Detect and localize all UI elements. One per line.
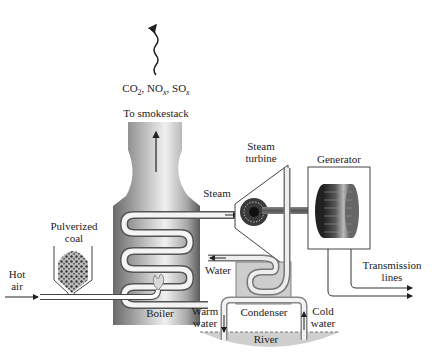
- generator: [308, 167, 370, 249]
- steam-label: Steam: [200, 187, 234, 199]
- river-label: River: [246, 333, 286, 345]
- pulverized-coal-label: Pulverized coal: [44, 220, 104, 244]
- condenser-label: Condenser: [232, 306, 296, 318]
- power-plant-diagram: CO2, NOx, SOx To smokestack Steam turbin…: [0, 0, 432, 362]
- water-label: Water: [201, 264, 235, 276]
- emissions-label: CO2, NOx, SOx: [120, 82, 192, 99]
- warm-water-label: Warm water: [188, 305, 222, 329]
- generator-label: Generator: [308, 153, 370, 165]
- hot-air-label: Hot air: [4, 268, 30, 292]
- coal-hopper: [54, 246, 92, 297]
- emissions-squiggle-icon: [154, 25, 158, 75]
- smokestack-label: To smokestack: [116, 107, 196, 119]
- steam-turbine-label: Steam turbine: [236, 140, 286, 164]
- transmission-lines-label: Transmission lines: [352, 259, 432, 283]
- cold-water-label: Cold water: [306, 305, 340, 329]
- boiler-label: Boiler: [140, 307, 180, 319]
